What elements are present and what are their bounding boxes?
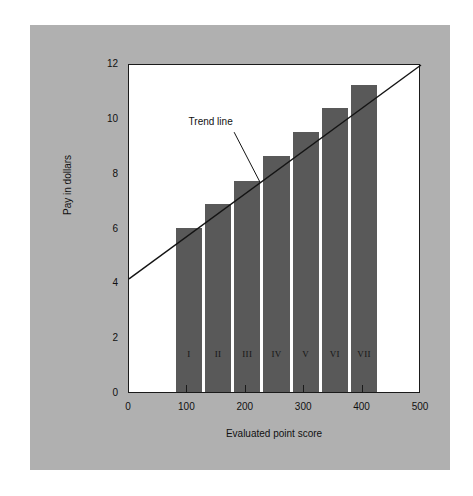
x-tick-label: 200: [225, 401, 265, 412]
x-tick-label: 300: [283, 401, 323, 412]
y-tick-label: 6: [96, 223, 118, 234]
y-tick-label: 4: [96, 277, 118, 288]
x-tick-label: 100: [166, 401, 206, 412]
y-tick-label: 8: [96, 168, 118, 179]
y-tick-label: 2: [96, 332, 118, 343]
y-tick-label: 0: [96, 387, 118, 398]
plot-inner: IIIIIIIVVVIVII Trend line: [129, 65, 419, 392]
annotation-leader-line: [234, 132, 260, 183]
x-tick-mark: [303, 385, 304, 393]
x-tick-label: 500: [400, 401, 440, 412]
chart-figure: Pay in dollars 024681012 IIIIIIIVVVIVII …: [0, 0, 473, 496]
x-tick-mark: [186, 385, 187, 393]
x-axis-title: Evaluated point score: [128, 428, 420, 439]
trend-line-annotation-label: Trend line: [189, 116, 233, 127]
y-axis-title: Pay in dollars: [62, 155, 73, 215]
y-tick-label: 12: [96, 58, 118, 69]
x-tick-mark: [245, 385, 246, 393]
x-tick-label: 0: [108, 401, 148, 412]
x-tick-label: 400: [342, 401, 382, 412]
annotation-leader-svg: [129, 65, 421, 394]
plot-area: IIIIIIIVVVIVII Trend line: [128, 64, 420, 393]
x-tick-mark: [362, 385, 363, 393]
y-tick-label: 10: [96, 113, 118, 124]
